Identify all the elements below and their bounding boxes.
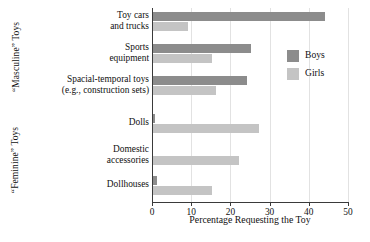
bar	[153, 86, 216, 95]
gridline	[309, 8, 310, 202]
x-axis-title: Percentage Requesting the Toy	[152, 214, 348, 225]
bar	[153, 76, 247, 85]
x-axis-line	[152, 202, 349, 203]
category-label-line: Dolls	[36, 117, 149, 127]
gridline	[270, 8, 271, 202]
bar	[153, 156, 239, 165]
category-label-line: Toy cars	[36, 10, 149, 20]
category-label: Spacial-temporal toys(e.g., construction…	[36, 74, 149, 95]
category-label-line: and trucks	[36, 21, 149, 31]
bar	[153, 176, 157, 185]
gridline	[348, 8, 349, 202]
y-axis-line	[152, 8, 153, 202]
bar	[153, 186, 212, 195]
x-tick	[348, 202, 349, 206]
category-label: Sportsequipment	[36, 42, 149, 63]
gridline	[230, 8, 231, 202]
x-tick	[152, 202, 153, 206]
category-label-line: accessories	[36, 155, 149, 165]
category-label-line: Dollhouses	[36, 179, 149, 189]
group-label-masculine: “Masculine” Toys	[11, 17, 21, 97]
bar-chart: “Masculine” Toys “Feminine” Toys Toy car…	[0, 0, 370, 242]
bar	[153, 54, 212, 63]
gridline	[191, 8, 192, 202]
category-label-line: equipment	[36, 53, 149, 63]
category-label-line: Spacial-temporal toys	[36, 74, 149, 84]
legend-swatch	[287, 50, 299, 62]
bar	[153, 12, 325, 21]
category-label: Dolls	[36, 117, 149, 127]
plot-area: 01020304050	[152, 8, 348, 202]
bar	[153, 44, 251, 53]
category-label-line: Sports	[36, 42, 149, 52]
category-axis-labels: Toy carsand trucksSportsequipmentSpacial…	[36, 8, 149, 202]
group-label-feminine: “Feminine” Toys	[10, 120, 20, 200]
category-label: Domesticaccessories	[36, 144, 149, 165]
legend-label: Girls	[305, 67, 324, 78]
category-label-line: (e.g., construction sets)	[36, 85, 149, 95]
legend-label: Boys	[305, 49, 325, 60]
bar	[153, 22, 188, 31]
x-tick	[230, 202, 231, 206]
x-tick	[191, 202, 192, 206]
category-label: Dollhouses	[36, 179, 149, 189]
bar	[153, 114, 155, 123]
legend-swatch	[287, 68, 299, 80]
x-tick	[270, 202, 271, 206]
category-label: Toy carsand trucks	[36, 10, 149, 31]
bar	[153, 124, 259, 133]
x-tick	[309, 202, 310, 206]
category-label-line: Domestic	[36, 144, 149, 154]
